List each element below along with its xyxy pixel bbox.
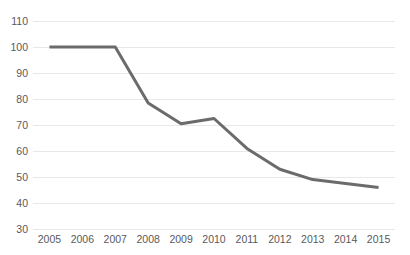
y-tick-label: 80 — [0, 94, 28, 104]
y-tick-label: 110 — [0, 16, 28, 26]
x-tick-label: 2005 — [38, 233, 61, 245]
y-tick-label: 50 — [0, 172, 28, 182]
y-tick-label: 90 — [0, 68, 28, 78]
x-tick-label: 2011 — [236, 233, 259, 245]
x-tick-label: 2010 — [202, 233, 225, 245]
y-tick-label: 100 — [0, 42, 28, 52]
x-tick-label: 2008 — [136, 233, 159, 245]
series-line — [33, 21, 395, 229]
y-tick-label: 70 — [0, 120, 28, 130]
x-axis: 2005200620072008200920102011201220132014… — [33, 233, 395, 249]
y-tick-label: 40 — [0, 198, 28, 208]
x-tick-label: 2014 — [334, 233, 357, 245]
y-tick-label: 30 — [0, 224, 28, 234]
x-tick-label: 2012 — [268, 233, 291, 245]
y-axis: 30405060708090100110 — [0, 21, 28, 229]
x-tick-label: 2007 — [104, 233, 127, 245]
y-tick-label: 60 — [0, 146, 28, 156]
x-tick-label: 2013 — [301, 233, 324, 245]
plot-area — [33, 21, 395, 229]
x-tick-label: 2006 — [71, 233, 94, 245]
line-chart: 30405060708090100110 2005200620072008200… — [0, 0, 410, 255]
x-tick-label: 2009 — [169, 233, 192, 245]
data-series-path — [49, 47, 378, 187]
gridline-30 — [33, 229, 395, 230]
x-tick-label: 2015 — [367, 233, 390, 245]
